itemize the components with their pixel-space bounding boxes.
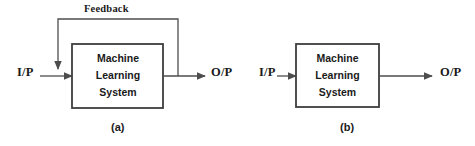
feedback-label-a: Feedback <box>84 4 129 15</box>
input-label-b: I/P <box>259 66 276 79</box>
box-line-2-b: Learning <box>296 67 379 84</box>
box-line-2-a: Learning <box>72 67 164 84</box>
figure-container: I/P O/P Feedback Machine Learning System… <box>0 0 475 146</box>
output-label-b: O/P <box>440 66 461 79</box>
input-label-a: I/P <box>17 66 34 79</box>
box-line-1-b: Machine <box>296 50 379 67</box>
ml-system-box-text-b: Machine Learning System <box>296 50 379 101</box>
box-line-3-a: System <box>72 84 164 101</box>
caption-a: (a) <box>111 122 124 133</box>
output-label-a: O/P <box>211 66 232 79</box>
ml-system-box-text-a: Machine Learning System <box>72 50 164 101</box>
box-line-1-a: Machine <box>72 50 164 67</box>
caption-b: (b) <box>340 122 354 133</box>
box-line-3-b: System <box>296 84 379 101</box>
